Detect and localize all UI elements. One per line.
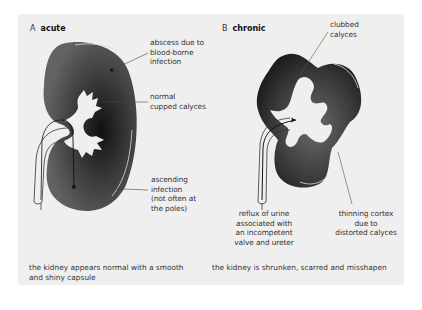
label-normal-calyces: normal cupped calyces [150,92,206,111]
caption-acute: the kidney appears normal with a smooth … [29,263,184,283]
panel-a-title: Aacute [30,24,66,33]
label-line: cupped calyces [150,102,206,112]
label-line: normal [150,92,206,102]
label-line: infection [150,57,204,67]
label-line: ascending [151,175,196,185]
label-reflux: reflux of urine associated with an incom… [228,209,300,247]
caption-line: the kidney appears normal with a smooth [29,263,184,273]
label-ascending-infection: ascending infection (not often at the po… [151,175,196,213]
label-line: the poles) [151,204,196,214]
label-line: reflux of urine [228,209,300,219]
kidney-chronic [257,32,361,210]
label-line: blood-borne [150,48,204,58]
label-line: due to [331,219,401,229]
label-line: distorted calyces [331,228,401,238]
label-clubbed-calyces: clubbed calyces [330,20,359,39]
label-line: an incompetent [228,228,300,238]
panel-b-letter: B [222,24,228,33]
label-line: clubbed [330,20,359,30]
label-abscess: abscess due to blood-borne infection [150,38,204,67]
label-line: calyces [330,30,359,40]
kidney-acute [34,42,148,211]
label-line: thinning cortex [331,209,401,219]
label-line: valve and ureter [228,238,300,248]
caption-line: the kidney is shrunken, scarred and miss… [212,263,387,273]
label-line: infection [151,185,196,195]
label-line: (not often at [151,194,196,204]
panel-a-heading: acute [40,24,65,33]
caption-chronic: the kidney is shrunken, scarred and miss… [212,263,387,273]
label-thinning-cortex: thinning cortex due to distorted calyces [331,209,401,238]
label-line: abscess due to [150,38,204,48]
caption-line: and shiny capsule [29,273,184,283]
label-line: associated with [228,219,300,229]
panel-b-heading: chronic [233,24,266,33]
panel-b-title: Bchronic [222,24,266,33]
panel-a-letter: A [30,24,35,33]
